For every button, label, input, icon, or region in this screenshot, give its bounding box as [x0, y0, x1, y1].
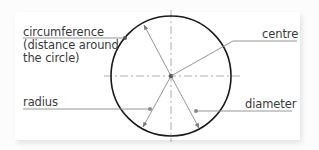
- diagram-stage: circumference (distance around the circl…: [0, 0, 319, 150]
- circumference-note-line2: the circle): [23, 52, 80, 65]
- circle-diagram: [0, 0, 319, 150]
- radius-line: [143, 76, 171, 127]
- radius-label: radius: [23, 96, 58, 109]
- centre-label: centre: [262, 28, 298, 41]
- diameter-line-lower: [171, 76, 199, 128]
- centre-leader-line: [171, 41, 297, 76]
- diameter-line: [144, 25, 171, 76]
- circumference-leader-dot: [123, 36, 127, 40]
- diameter-label: diameter: [245, 98, 296, 111]
- radius-leader-dot: [148, 107, 152, 111]
- diameter-leader-dot: [194, 109, 198, 113]
